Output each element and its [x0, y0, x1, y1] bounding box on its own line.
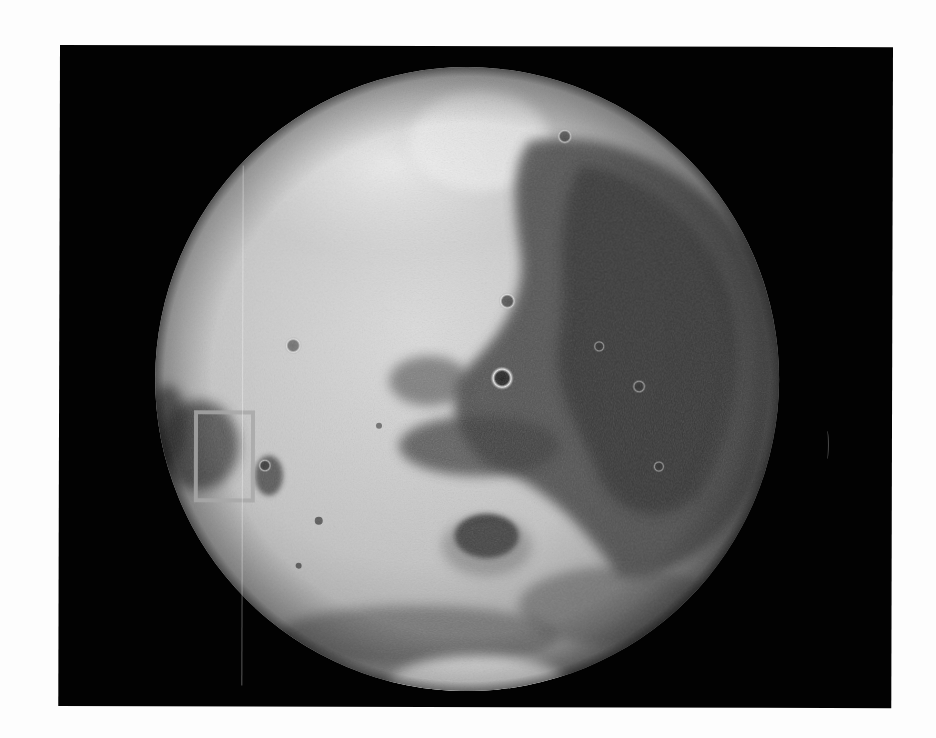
- page: [0, 0, 936, 738]
- planet-image: [58, 45, 893, 708]
- photo-frame: [58, 45, 893, 708]
